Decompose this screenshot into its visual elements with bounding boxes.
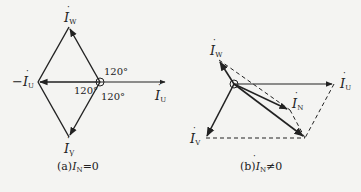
label-iw: IW (63, 10, 77, 26)
dashed-construction-line (305, 84, 334, 138)
vector-iv (207, 84, 234, 136)
dot-accent: · (295, 88, 298, 98)
dot-accent: · (70, 151, 73, 161)
figure-canvas: IW · −IU · IU · IV · 120° 120° 120° (a)I… (0, 0, 361, 192)
rhombus-edge (38, 27, 69, 82)
vector-in (234, 84, 287, 109)
label-neg-iu: −IU (12, 74, 34, 90)
angle-label: 120° (101, 91, 125, 102)
dot-accent: · (193, 123, 196, 133)
dot-accent: · (67, 133, 70, 143)
dot-accent: · (67, 2, 70, 12)
dot-accent: · (26, 66, 29, 76)
rhombus-edge (38, 82, 69, 137)
panel-b: IW · IU · IN · IV · (b)IN≠0 · (189, 35, 351, 174)
vector-iw (70, 29, 100, 82)
angle-label: 120° (104, 66, 128, 77)
dashed-construction-line (290, 110, 305, 138)
label-iv: IV (189, 131, 201, 147)
label-iu: IU (154, 88, 166, 104)
caption-b: (b)IN≠0 (240, 160, 282, 174)
dot-accent: · (343, 68, 346, 78)
dot-accent: · (158, 80, 161, 90)
label-iu: IU (339, 76, 351, 92)
dot-accent: · (253, 151, 256, 161)
panel-a: IW · −IU · IU · IV · 120° 120° 120° (a)I… (12, 2, 166, 174)
caption-a: (a)IN=0 (57, 160, 99, 174)
angle-label: 120° (74, 85, 98, 96)
dot-accent: · (213, 35, 216, 45)
label-in: IN (291, 96, 303, 112)
phasor-diagram-figure: IW · −IU · IU · IV · 120° 120° 120° (a)I… (0, 0, 361, 192)
label-iw: IW (209, 43, 223, 59)
